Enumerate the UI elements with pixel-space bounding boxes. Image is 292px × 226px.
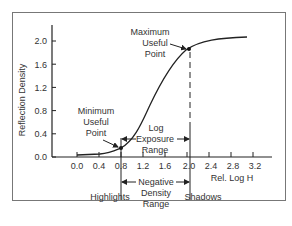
svg-text:Point: Point (86, 128, 107, 138)
x-tick-label: 2.4 (205, 161, 218, 171)
svg-text:Range: Range (143, 199, 170, 209)
highlights-label: Highlights (90, 192, 130, 202)
svg-text:Density: Density (141, 188, 172, 198)
min-point-arrow (103, 140, 118, 147)
svg-text:Maximum: Maximum (130, 27, 169, 37)
y-tick-label: 1.2 (34, 83, 47, 93)
x-tick-labels: 0.0 0.4 0.8 1.2 1.6 2.0 2.4 2.8 3.2 (71, 161, 262, 171)
y-axis-label: Reflection Density (17, 63, 27, 136)
maximum-useful-point-label: Maximum Useful Point (130, 27, 169, 59)
x-tick-label: 1.2 (137, 161, 150, 171)
svg-text:Negative: Negative (138, 177, 174, 187)
svg-text:Minimum: Minimum (78, 106, 115, 116)
x-tick-label: 3.2 (249, 161, 262, 171)
x-tick-label: 2.8 (227, 161, 240, 171)
negative-density-range-label: Negative Density Range (138, 177, 174, 209)
y-tick-label: 0.4 (34, 129, 47, 139)
max-point-arrow (170, 44, 186, 49)
x-axis-label: Rel. Log H (211, 173, 254, 183)
minimum-useful-point-label: Minimum Useful Point (78, 106, 115, 138)
x-tick-label: 0.0 (71, 161, 84, 171)
y-tick-label: 0.0 (34, 152, 47, 162)
y-tick-labels: 0.0 0.4 0.8 1.2 1.6 2.0 (34, 36, 47, 162)
shadows-label: Shadows (184, 192, 222, 202)
x-tick-label: 2.0 (183, 161, 196, 171)
x-tick-label: 0.4 (93, 161, 106, 171)
svg-text:Range: Range (142, 145, 169, 155)
chart-svg: 0.0 0.4 0.8 1.2 1.6 2.0 0.0 0.4 0.8 1.2 … (0, 0, 292, 226)
y-tick-label: 1.6 (34, 60, 47, 70)
chart-figure: 0.0 0.4 0.8 1.2 1.6 2.0 0.0 0.4 0.8 1.2 … (0, 0, 292, 226)
svg-text:Exposure: Exposure (136, 134, 174, 144)
y-tick-label: 0.8 (34, 106, 47, 116)
y-tick-label: 2.0 (34, 36, 47, 46)
svg-text:Useful: Useful (83, 117, 109, 127)
svg-text:Log: Log (148, 123, 163, 133)
maximum-useful-point-marker (187, 47, 191, 51)
svg-text:Point: Point (145, 49, 166, 59)
log-exposure-range-label: Log Exposure Range (136, 123, 174, 155)
x-tick-label: 1.6 (159, 161, 172, 171)
svg-text:Useful: Useful (142, 38, 168, 48)
